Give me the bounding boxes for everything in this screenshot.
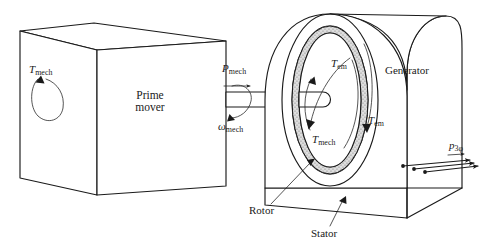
stator-label: Stator: [311, 228, 337, 240]
prime-mover-label-line1: Prime: [136, 89, 163, 101]
prime-mover-label-line2: mover: [135, 101, 164, 113]
terminal-dot: [423, 170, 427, 174]
power-subscript: mech: [229, 67, 247, 76]
em-torque-label-lower: Tem: [368, 115, 384, 128]
terminal-dot: [412, 167, 416, 171]
figure-root: Prime mover Generator Tmech Pmech ωmech …: [0, 0, 486, 252]
generator-label: Generator: [385, 65, 429, 77]
mech-torque-subscript: mech: [318, 138, 336, 147]
em-torque-subscript: em: [374, 119, 384, 128]
torque-subscript: mech: [35, 68, 53, 77]
prime-mover-label: Prime mover: [120, 89, 180, 114]
rotor-mech-torque-label: Tmech: [312, 134, 336, 147]
em-torque-subscript: em: [337, 62, 347, 71]
power-symbol: P: [222, 62, 229, 74]
em-torque-label-upper: Tem: [331, 58, 347, 71]
generator-body-right: [407, 16, 462, 188]
output-power-label: p3φ: [449, 140, 463, 153]
prime-mover-torque-label: Tmech: [29, 64, 53, 77]
rotor-label: Rotor: [249, 205, 274, 217]
speed-subscript: mech: [226, 125, 244, 134]
shaft-speed-label: ωmech: [218, 121, 243, 134]
prime-mover-front-face: [97, 41, 226, 195]
prime-mover-left-face: [20, 31, 97, 195]
shaft-power-label: Pmech: [222, 63, 246, 76]
terminal-dot: [401, 164, 405, 168]
output-power-subscript: 3φ: [455, 144, 464, 153]
speed-symbol: ω: [218, 120, 226, 132]
generator-base-back-edge: [407, 188, 462, 218]
shaft-hub: [299, 92, 331, 107]
